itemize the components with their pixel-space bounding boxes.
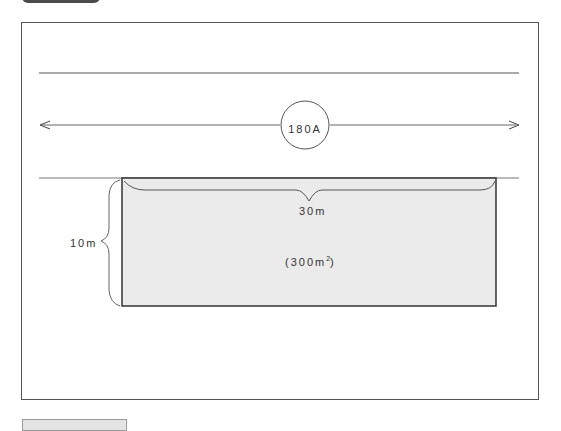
footer-tab xyxy=(22,419,127,431)
road-label: 180A xyxy=(280,123,330,135)
area-value: (300m xyxy=(285,256,326,268)
parcel-rectangle xyxy=(122,178,496,306)
parcel-area-label: (300m2) xyxy=(285,255,336,268)
area-close: ) xyxy=(330,256,336,268)
parcel-width-label: 30m xyxy=(299,205,326,217)
parcel-depth-label: 10m xyxy=(70,237,97,249)
depth-brace xyxy=(101,180,120,306)
